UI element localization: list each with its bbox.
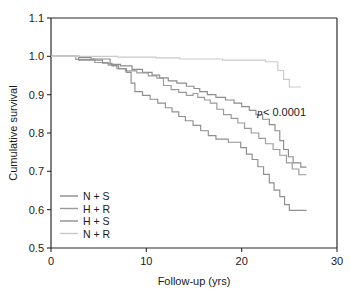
- p-value-annotation: p < 0.0001: [256, 106, 306, 118]
- p-value-text: < 0.0001: [263, 106, 306, 118]
- x-axis-title: Follow-up (yrs): [158, 275, 231, 287]
- y-axis-title: Cumulative survival: [7, 85, 19, 180]
- survival-chart-figure: 0.50.60.70.80.91.01.1 0102030 N + SH + R…: [0, 0, 351, 294]
- legend-label: N + R: [83, 228, 111, 240]
- x-tick-label: 20: [236, 255, 248, 267]
- p-value-symbol: p: [256, 106, 263, 118]
- legend-label: N + S: [83, 190, 110, 202]
- x-tick-label: 0: [48, 255, 54, 267]
- chart-canvas: 0.50.60.70.80.91.01.1 0102030 N + SH + R…: [0, 0, 351, 294]
- y-tick-label: 0.5: [29, 242, 44, 254]
- y-tick-label: 1.1: [29, 12, 44, 24]
- y-tick-label: 0.7: [29, 165, 44, 177]
- y-tick-label: 0.9: [29, 89, 44, 101]
- x-tick-label: 30: [331, 255, 343, 267]
- y-tick-label: 1.0: [29, 50, 44, 62]
- chart-background: [0, 0, 351, 294]
- legend-label: H + R: [83, 203, 111, 215]
- x-tick-label: 10: [140, 255, 152, 267]
- legend-label: H + S: [83, 215, 110, 227]
- y-tick-label: 0.6: [29, 204, 44, 216]
- y-tick-label: 0.8: [29, 127, 44, 139]
